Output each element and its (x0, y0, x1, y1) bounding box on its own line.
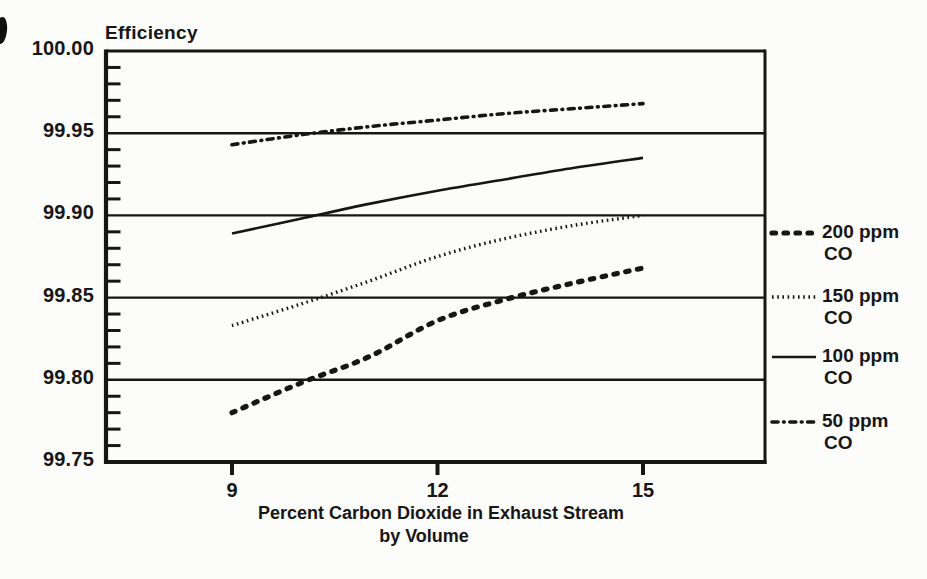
y-axis-tick-labels: 100.0099.9599.9099.8599.8099.75 (22, 0, 94, 579)
y-axis-title: Efficiency (105, 22, 198, 44)
efficiency-chart-figure: Efficiency 100.0099.9599.9099.8599.8099.… (0, 0, 927, 579)
y-tick-label: 99.80 (43, 366, 94, 388)
x-axis-title-line1: Percent Carbon Dioxide in Exhaust Stream (258, 502, 624, 525)
y-tick-label: 99.75 (43, 448, 94, 470)
series-line-150-ppm-co (232, 215, 643, 325)
x-tick-label: 12 (426, 479, 448, 501)
series-line-50-ppm-co (232, 104, 643, 145)
y-tick-label: 99.85 (43, 284, 94, 306)
series-line-200-ppm-co (232, 268, 643, 413)
x-tick-label: 9 (226, 479, 237, 501)
x-tick-label: 15 (632, 479, 654, 501)
y-tick-label: 100.00 (32, 37, 94, 59)
y-tick-label: 99.95 (43, 119, 94, 141)
series-line-100-ppm-co (232, 158, 643, 234)
x-axis-title-line2: by Volume (379, 525, 469, 548)
y-tick-label: 99.90 (43, 201, 94, 223)
plot-area (0, 0, 927, 579)
